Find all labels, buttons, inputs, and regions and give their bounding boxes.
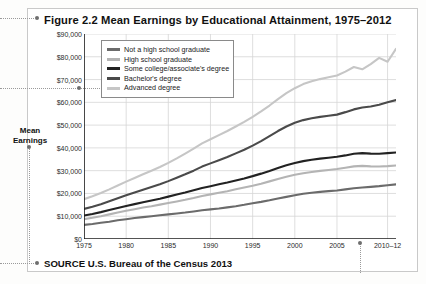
legend-swatch-icon xyxy=(107,48,120,51)
y-axis-tick-label: $70,000 xyxy=(57,76,82,83)
legend-swatch-icon xyxy=(107,58,120,61)
legend-swatch-icon xyxy=(107,87,120,90)
legend-swatch-icon xyxy=(107,67,120,70)
x-axis-tick-label: 1975 xyxy=(76,242,92,249)
x-axis-tick-label: 1990 xyxy=(203,242,219,249)
y-axis-tick-label: $50,000 xyxy=(57,122,82,129)
callout-guide-title xyxy=(0,18,34,19)
y-axis-tick-label: $20,000 xyxy=(57,190,82,197)
callout-dot-source xyxy=(35,261,39,265)
legend-item: Some college/associate's degree xyxy=(107,64,227,74)
series-line xyxy=(84,165,396,219)
chart-legend: Not a high school graduateHigh school gr… xyxy=(101,40,234,98)
callout-dot-title xyxy=(35,16,39,20)
legend-label: Advanced degree xyxy=(124,83,180,93)
figure-source: SOURCE U.S. Bureau of the Census 2013 xyxy=(44,258,232,269)
legend-label: High school graduate xyxy=(124,55,192,65)
legend-swatch-icon xyxy=(107,77,120,80)
x-axis-ticks: 19751980198519901995200020052010–12 xyxy=(84,242,396,254)
y-axis-ticks: $90,000$80,000$70,000$60,000$50,000$40,0… xyxy=(36,34,82,239)
x-axis-tick-label: 2010–12 xyxy=(374,242,401,249)
y-axis-tick-label: $90,000 xyxy=(57,31,82,38)
x-axis-tick-label: 2005 xyxy=(329,242,345,249)
y-axis-tick-label: $40,000 xyxy=(57,144,82,151)
legend-label: Not a high school graduate xyxy=(124,45,210,55)
y-axis-tick-label: $10,000 xyxy=(57,213,82,220)
callout-guide-vertical xyxy=(29,146,30,262)
callout-guide-source xyxy=(0,263,34,264)
figure-root: Figure 2.2 Mean Earnings by Educational … xyxy=(0,0,426,284)
figure-title: Figure 2.2 Mean Earnings by Educational … xyxy=(44,14,392,26)
legend-item: Bachelor's degree xyxy=(107,74,227,84)
legend-label: Bachelor's degree xyxy=(124,74,182,84)
y-axis-tick-label: $30,000 xyxy=(57,167,82,174)
legend-item: Advanced degree xyxy=(107,83,227,93)
x-axis-tick-label: 1980 xyxy=(118,242,134,249)
x-axis-tick-label: 2000 xyxy=(287,242,303,249)
legend-label: Some college/associate's degree xyxy=(124,64,229,74)
y-axis-tick-label: $60,000 xyxy=(57,99,82,106)
legend-item: Not a high school graduate xyxy=(107,45,227,55)
callout-dot-ylabel xyxy=(27,145,31,149)
y-axis-tick-label: $80,000 xyxy=(57,53,82,60)
legend-item: High school graduate xyxy=(107,55,227,65)
x-axis-tick-label: 1985 xyxy=(161,242,177,249)
x-axis-tick-label: 1995 xyxy=(245,242,261,249)
